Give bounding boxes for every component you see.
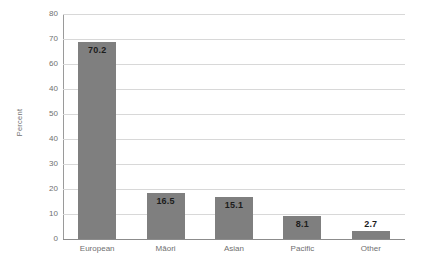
y-axis-tick-label: 80 xyxy=(49,10,58,18)
bar[interactable] xyxy=(78,42,116,239)
x-axis-category-label: Other xyxy=(361,245,381,253)
y-axis-tick-label: 20 xyxy=(49,185,58,193)
bar-value-label: 16.5 xyxy=(156,196,174,206)
y-axis-tick-label: 50 xyxy=(49,110,58,118)
bar-group: 2.7 xyxy=(337,14,405,239)
bars: 70.216.515.18.12.7 xyxy=(63,14,405,239)
y-axis-tick-label: 40 xyxy=(49,85,58,93)
x-axis-category-labels: EuropeanMāoriAsianPacificOther xyxy=(63,245,405,263)
x-axis-category-label: Asian xyxy=(224,245,244,253)
y-axis-tick-label: 10 xyxy=(49,210,58,218)
bar-chart: Percent 8070604050403020100 70.216.515.1… xyxy=(0,0,429,269)
y-axis-title: Percent xyxy=(13,0,27,245)
bar-group: 16.5 xyxy=(131,14,199,239)
x-axis-category-label: European xyxy=(80,245,115,253)
y-axis-tick-label: 40 xyxy=(49,135,58,143)
bar-value-label: 2.7 xyxy=(364,219,377,229)
x-axis-category-label: Māori xyxy=(156,245,176,253)
bar-value-label: 15.1 xyxy=(225,200,243,210)
bar-group: 15.1 xyxy=(200,14,268,239)
bar-group: 8.1 xyxy=(268,14,336,239)
x-axis-category-label: Pacific xyxy=(291,245,315,253)
y-axis-tick-label: 60 xyxy=(49,60,58,68)
bar[interactable] xyxy=(352,231,390,239)
y-axis-tick-labels: 8070604050403020100 xyxy=(28,14,58,239)
bar-value-label: 8.1 xyxy=(296,219,309,229)
y-axis-tick-label: 30 xyxy=(49,160,58,168)
bar-group: 70.2 xyxy=(63,14,131,239)
bar-value-label: 70.2 xyxy=(88,45,106,55)
y-axis-title-label: Percent xyxy=(16,109,25,137)
x-axis-baseline xyxy=(63,239,405,240)
y-axis-tick-label: 0 xyxy=(54,235,58,243)
y-axis-tick-label: 70 xyxy=(49,35,58,43)
plot-area: 70.216.515.18.12.7 xyxy=(63,14,405,239)
